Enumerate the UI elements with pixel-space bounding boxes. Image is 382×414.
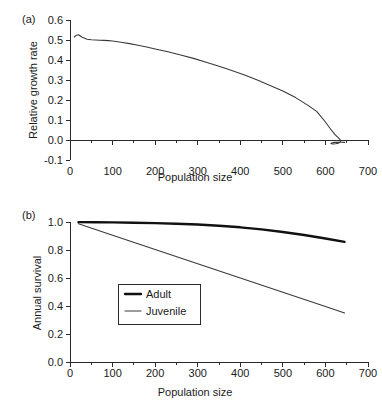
legend-label: Adult [146, 288, 171, 300]
panel-a-plot: -0.10.00.10.20.30.40.50.6010020030040050… [0, 0, 382, 200]
panel-a-x-axis-label: Population size [130, 171, 260, 183]
svg-text:0.6: 0.6 [48, 272, 63, 284]
svg-text:0.0: 0.0 [48, 134, 63, 146]
svg-text:600: 600 [316, 165, 334, 177]
svg-text:0: 0 [67, 165, 73, 177]
svg-text:0.4: 0.4 [48, 54, 63, 66]
panel-b-plot: 0.00.20.40.60.81.00100200300400500600700… [0, 200, 382, 414]
svg-text:0.0: 0.0 [48, 356, 63, 368]
svg-text:700: 700 [359, 367, 377, 379]
svg-text:0.5: 0.5 [48, 34, 63, 46]
svg-text:-0.1: -0.1 [44, 154, 63, 166]
legend-label: Juvenile [146, 305, 186, 317]
svg-text:0.4: 0.4 [48, 300, 63, 312]
svg-text:1.0: 1.0 [48, 216, 63, 228]
figure-container: (a) Relative growth rate Population size… [0, 0, 382, 414]
svg-text:700: 700 [359, 165, 377, 177]
panel-b-x-axis-label: Population size [130, 386, 260, 398]
panel-a-label: (a) [22, 13, 35, 25]
panel-b: (b) Annual survival Population size 0.00… [0, 200, 382, 414]
panel-a-y-axis-label: Relative growth rate [27, 26, 39, 154]
svg-text:0.6: 0.6 [48, 14, 63, 26]
svg-text:0.8: 0.8 [48, 244, 63, 256]
svg-text:500: 500 [274, 367, 292, 379]
svg-text:0.3: 0.3 [48, 74, 63, 86]
svg-text:0: 0 [67, 367, 73, 379]
svg-text:0.2: 0.2 [48, 328, 63, 340]
svg-text:600: 600 [316, 367, 334, 379]
panel-a: (a) Relative growth rate Population size… [0, 0, 382, 200]
svg-text:500: 500 [274, 165, 292, 177]
svg-text:0.1: 0.1 [48, 114, 63, 126]
panel-b-y-axis-label: Annual survival [31, 238, 43, 348]
svg-text:200: 200 [146, 367, 164, 379]
svg-text:100: 100 [103, 367, 121, 379]
svg-text:300: 300 [189, 367, 207, 379]
svg-text:100: 100 [103, 165, 121, 177]
panel-b-label: (b) [22, 209, 35, 221]
svg-text:400: 400 [231, 367, 249, 379]
svg-text:0.2: 0.2 [48, 94, 63, 106]
